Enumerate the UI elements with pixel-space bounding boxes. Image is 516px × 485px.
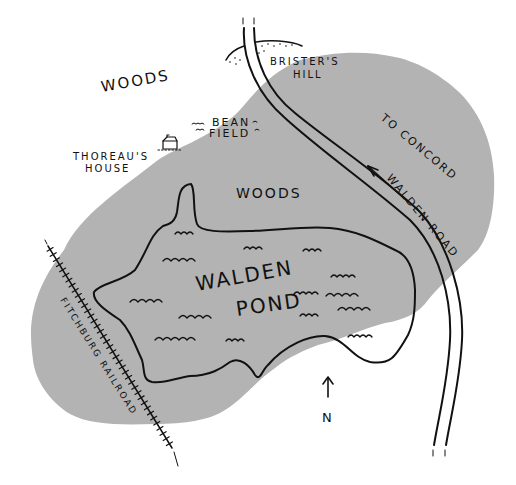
north-arrow-icon [323, 377, 333, 397]
label-bean-field-2: FIELD [209, 127, 250, 140]
label-thoreaus-house-2: HOUSE [85, 163, 130, 174]
walden-pond-map: WOODS WOODS BEAN FIELD THOREAU'S HOUSE B… [0, 0, 516, 485]
label-bristers-hill-2: HILL [293, 69, 323, 80]
label-woods-south: WOODS [236, 185, 302, 201]
thoreaus-house-icon [158, 135, 182, 150]
label-thoreaus-house-1: THOREAU'S [72, 151, 149, 162]
label-north: N [322, 410, 334, 425]
label-bristers-hill-1: BRISTER'S [270, 56, 340, 67]
label-woods-north: WOODS [100, 66, 172, 96]
